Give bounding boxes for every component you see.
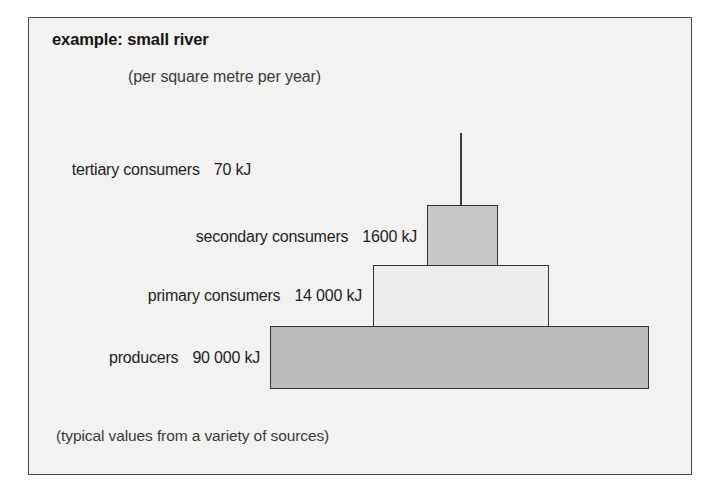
figure-title: example: small river <box>52 30 209 49</box>
tier-value-primary: 14 000 kJ <box>294 287 362 304</box>
tier-value-producers: 90 000 kJ <box>192 349 260 366</box>
energy-pyramid-figure: example: small river (per square metre p… <box>0 0 707 492</box>
bar-tertiary-consumers <box>460 133 462 206</box>
tier-name-producers: producers <box>109 349 178 366</box>
bar-secondary-consumers <box>427 205 498 266</box>
tier-name-primary: primary consumers <box>148 287 281 304</box>
tier-label-primary: primary consumers14 000 kJ <box>148 287 362 305</box>
tier-value-secondary: 1600 kJ <box>362 228 417 245</box>
tier-name-tertiary: tertiary consumers <box>72 161 200 178</box>
tier-value-tertiary: 70 kJ <box>214 161 251 178</box>
tier-label-producers: producers90 000 kJ <box>109 349 260 367</box>
tier-name-secondary: secondary consumers <box>196 228 349 245</box>
figure-footnote: (typical values from a variety of source… <box>56 427 329 445</box>
figure-subtitle: (per square metre per year) <box>128 68 321 86</box>
bar-primary-consumers <box>373 265 549 327</box>
tier-label-secondary: secondary consumers1600 kJ <box>196 228 417 246</box>
tier-label-tertiary: tertiary consumers70 kJ <box>72 161 251 179</box>
bar-producers <box>270 326 649 389</box>
